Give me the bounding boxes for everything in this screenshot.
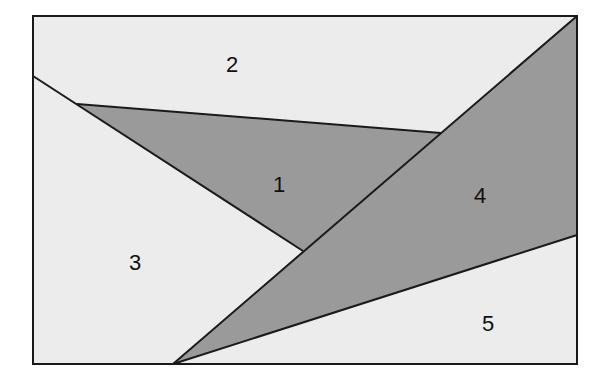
- region-diagram: 12345: [0, 0, 595, 382]
- region-label-3: 3: [129, 250, 141, 275]
- region-label-1: 1: [273, 172, 285, 197]
- regions-group: [33, 16, 577, 364]
- region-label-4: 4: [474, 183, 486, 208]
- region-label-2: 2: [226, 52, 238, 77]
- region-label-5: 5: [482, 311, 494, 336]
